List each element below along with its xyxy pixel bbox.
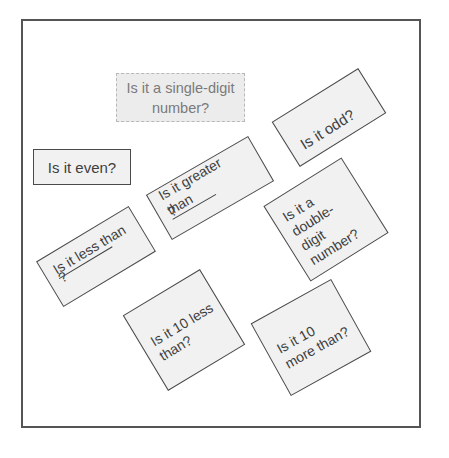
card-text-line: Is it a single-digit [127,78,235,98]
card-text: Is it even? [48,159,116,176]
card-is-it-even[interactable]: Is it even? [33,149,131,185]
card-single-digit-number[interactable]: Is it a single-digit number? [116,73,245,122]
card-text-line: number? [127,98,235,118]
